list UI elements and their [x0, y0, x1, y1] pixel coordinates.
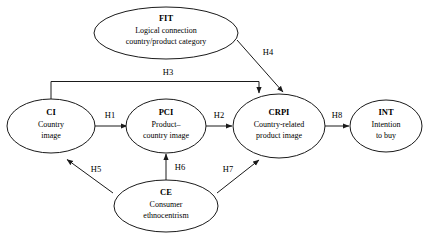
node-int[interactable]: INT Intention to buy	[350, 100, 422, 152]
edge-h8-label: H8	[332, 110, 342, 120]
node-pci[interactable]: PCI Product– country image	[126, 99, 206, 153]
edge-h6-label: H6	[175, 162, 185, 172]
node-ci-desc-line2: image	[41, 131, 61, 140]
node-ce[interactable]: CE Consumer ethnocentrism	[114, 180, 218, 232]
node-crpi[interactable]: CRPI Country-related product image	[233, 94, 325, 158]
diagram-canvas: H3 H4 H1 H2 H8 H5 H6	[0, 0, 428, 242]
node-ce-desc-line2: ethnocentrism	[143, 211, 189, 220]
edge-h2: H2	[206, 110, 232, 126]
node-crpi-desc-line1: Country-related	[254, 120, 305, 129]
node-crpi-code: CRPI	[269, 107, 290, 117]
edge-h6: H6	[166, 154, 185, 180]
node-ce-desc-line1: Consumer	[150, 200, 183, 209]
edge-h1-label: H1	[105, 110, 115, 120]
edge-h4: H4	[237, 40, 283, 92]
node-fit-desc-line2: country/product category	[126, 37, 207, 46]
edge-h7-label: H7	[223, 164, 233, 174]
node-fit-desc-line1: Logical connection	[135, 26, 197, 35]
edge-h3-path	[51, 82, 259, 100]
node-ci-desc-line1: Country	[38, 120, 64, 129]
path-model-diagram: H3 H4 H1 H2 H8 H5 H6	[0, 0, 428, 242]
node-int-desc-line1: Intention	[372, 120, 401, 129]
edge-h8: H8	[325, 110, 349, 126]
node-int-code: INT	[378, 107, 393, 117]
edge-h5: H5	[67, 160, 113, 194]
edge-h7: H7	[217, 160, 259, 193]
node-fit[interactable]: FIT Logical connection country/product c…	[94, 7, 238, 59]
node-ci-code: CI	[46, 107, 56, 117]
edge-h4-label: H4	[263, 47, 274, 57]
node-pci-desc-line1: Product–	[152, 120, 182, 129]
node-ci[interactable]: CI Country image	[7, 99, 95, 153]
edge-h5-label: H5	[91, 164, 101, 174]
edge-h3: H3	[51, 67, 259, 99]
edge-h3-label: H3	[163, 67, 173, 77]
edge-h2-label: H2	[214, 110, 224, 120]
node-crpi-desc-line2: product image	[256, 131, 302, 140]
node-ce-code: CE	[160, 187, 172, 197]
node-pci-code: PCI	[159, 107, 174, 117]
node-pci-desc-line2: country image	[143, 131, 189, 140]
edge-h1: H1	[95, 110, 128, 126]
node-fit-code: FIT	[159, 13, 174, 23]
node-int-desc-line2: to buy	[376, 131, 396, 140]
edge-h4-path	[237, 40, 283, 92]
